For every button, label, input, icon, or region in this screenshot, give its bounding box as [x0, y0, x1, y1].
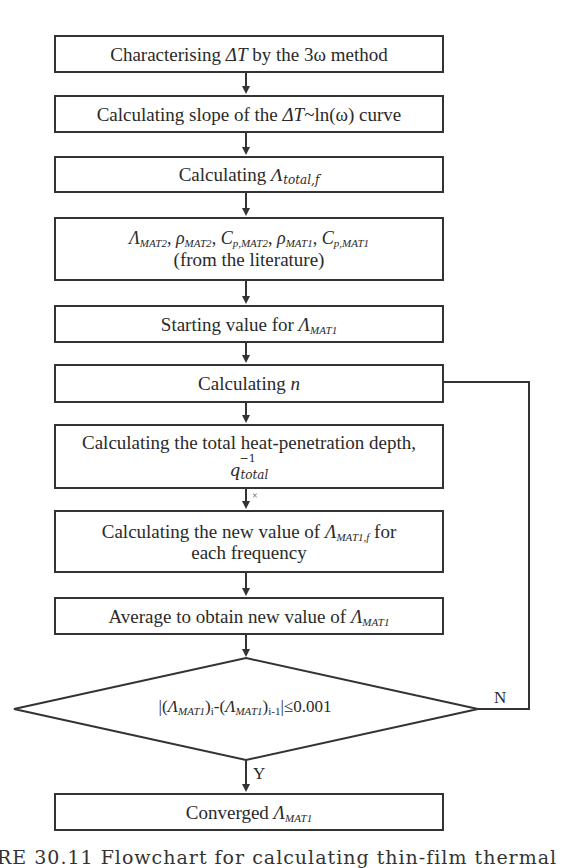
figure-caption: URE 30.11 Flowchart for calculating thin… [0, 846, 557, 868]
step-text: by the 3ω method [248, 44, 388, 65]
loop-no-line [444, 382, 529, 709]
subscript: MAT2 [185, 237, 212, 249]
subscript: MAT1 [362, 616, 389, 628]
step-text: Converged [186, 802, 274, 823]
step-text: Calculating slope of the [97, 104, 283, 125]
n-symbol: n [290, 373, 300, 394]
convergence-condition: |(ΛMAT1)i-(ΛMAT1)i-1|≤0.001 [100, 697, 390, 717]
step-converged-lambda: Converged ΛMAT1 [54, 793, 444, 831]
step-text: Average to obtain new value of [109, 606, 351, 627]
subscript: total [241, 468, 269, 482]
delta-t-symbol: ΔT [226, 44, 248, 65]
rho-symbol: ρ [176, 228, 185, 248]
subscript: MAT1 [286, 237, 313, 249]
lambda-symbol: Λ [129, 228, 140, 248]
step-heat-penetration-depth: Calculating the total heat-penetration d… [54, 424, 444, 489]
subscript: MAT2 [140, 237, 167, 249]
operator: -( [214, 697, 225, 716]
step-text: Starting value for [161, 314, 299, 335]
lambda-symbol: Λ [351, 606, 362, 627]
yes-label: Y [253, 764, 265, 784]
threshold: |≤0.001 [280, 697, 331, 716]
step-text: for [369, 521, 396, 542]
step-text: Calculating [198, 373, 290, 394]
step-starting-value: Starting value for ΛMAT1 [54, 305, 444, 343]
stray-mark: × [252, 490, 258, 501]
step-text: Characterising [110, 44, 226, 65]
lambda-symbol: Λ [168, 697, 178, 716]
subscript: MAT1 [285, 812, 312, 824]
subscript: MAT1 [178, 705, 205, 717]
no-label: N [494, 688, 506, 708]
step-characterise-delta-t: Characterising ΔT by the 3ω method [54, 35, 444, 73]
step-text: Calculating the new value of [102, 521, 325, 542]
subscript: MAT1,f [336, 531, 369, 543]
lambda-symbol: Λ [274, 802, 285, 823]
subscript: total,f [283, 173, 319, 187]
separator: , [313, 228, 322, 248]
step-new-lambda-per-frequency: Calculating the new value of ΛMAT1,f for… [54, 510, 444, 573]
lambda-symbol: Λ [325, 521, 336, 542]
separator: , [212, 228, 221, 248]
lambda-symbol: Λ [299, 314, 310, 335]
lambda-symbol: Λ [271, 165, 283, 185]
literature-note: (from the literature) [174, 249, 325, 270]
subscript: MAT1 [235, 705, 262, 717]
separator: , [268, 228, 277, 248]
step-text: each frequency [191, 542, 307, 563]
bracket: |( [159, 697, 168, 716]
superscript: −1 [240, 448, 256, 469]
step-literature-parameters: ΛMAT2, ρMAT2, Cp,MAT2, ρMAT1, Cp,MAT1 (f… [54, 217, 444, 281]
parameter-list: ΛMAT2, ρMAT2, Cp,MAT2, ρMAT1, Cp,MAT1 [129, 228, 369, 249]
cp-symbol: C [322, 228, 334, 248]
index-i-minus-1: i-1 [268, 705, 280, 717]
cp-symbol: C [221, 228, 233, 248]
subscript: p,MAT1 [334, 237, 369, 249]
lambda-symbol: Λ [225, 697, 235, 716]
subscript: MAT1 [310, 324, 337, 336]
separator: , [167, 228, 176, 248]
step-text: ~ln(ω) curve [304, 104, 401, 125]
step-calculate-lambda-total: Calculating Λtotal,f [54, 156, 444, 193]
subscript: p,MAT2 [233, 237, 268, 249]
step-average-lambda: Average to obtain new value of ΛMAT1 [54, 597, 444, 635]
rho-symbol: ρ [277, 228, 286, 248]
step-text: Calculating [179, 164, 271, 185]
step-calculate-slope: Calculating slope of the ΔT~ln(ω) curve [54, 95, 444, 133]
delta-t-symbol: ΔT [282, 104, 304, 125]
step-calculate-n: Calculating n [54, 364, 444, 403]
q-total-inverse: q−1total [230, 460, 269, 481]
